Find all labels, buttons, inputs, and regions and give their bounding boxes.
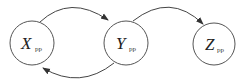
- edge-y-to-z: [133, 7, 203, 24]
- node-z: Z pp: [193, 23, 235, 65]
- node-z-subscript: pp: [217, 46, 225, 54]
- node-x-subscript: pp: [35, 45, 43, 53]
- edge-y-to-x: [43, 63, 114, 78]
- node-y-label: Y: [116, 34, 127, 53]
- node-y: Y pp: [104, 21, 148, 65]
- causal-diagram: X pp Y pp Z pp: [0, 0, 248, 80]
- node-y-subscript: pp: [129, 45, 137, 53]
- edge-x-to-y: [40, 7, 108, 22]
- node-x: X pp: [10, 21, 54, 65]
- node-z-label: Z: [205, 35, 215, 54]
- node-x-label: X: [20, 34, 32, 53]
